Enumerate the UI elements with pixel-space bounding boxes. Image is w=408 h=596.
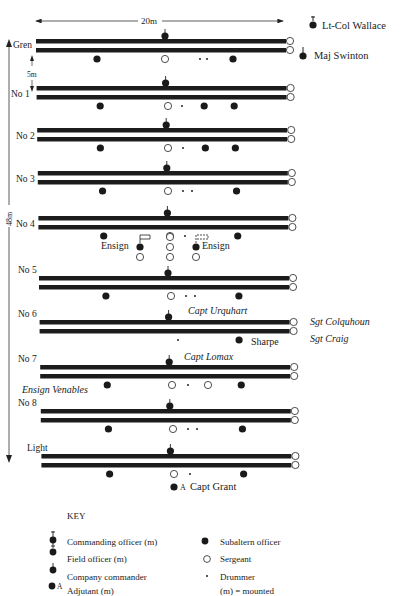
- rank-bar: [38, 171, 288, 176]
- drummer-icon: [189, 473, 191, 475]
- rank-bar: [40, 329, 290, 334]
- capt-lomax-label: Capt Lomax: [184, 351, 234, 362]
- sergeant-icon: [289, 223, 296, 230]
- sergeant-icon: [204, 381, 211, 388]
- subaltern-icon: [235, 292, 242, 299]
- drummer-icon: [206, 575, 208, 577]
- width-label: 20m: [141, 16, 157, 26]
- maj-swinton: Maj Swinton: [299, 47, 369, 61]
- company-formation-diagram: 20m 48m 5m GrenNo 1No 2No 3No 4No 5No 6N…: [0, 0, 408, 596]
- company-gren: Gren: [13, 29, 294, 63]
- sergeant-icon: [170, 470, 177, 477]
- rank-bar: [38, 216, 288, 221]
- rank-bar: [41, 409, 291, 414]
- company-no-3: No 3: [16, 161, 295, 195]
- gap-label: 5m: [27, 70, 37, 79]
- key-label: Field officer (m): [67, 554, 127, 564]
- adjutant: A Capt Grant: [170, 481, 236, 492]
- sergeant-icon: [287, 93, 294, 100]
- drummer-icon: [187, 384, 189, 386]
- subaltern-icon: [233, 187, 240, 194]
- subaltern-icon: [239, 425, 246, 432]
- subaltern-icon: [229, 55, 236, 62]
- adjutant-marker-key: A: [57, 582, 63, 591]
- company-label: No 2: [16, 131, 35, 141]
- rank-bar: [41, 418, 291, 423]
- drummer-icon: [177, 339, 179, 341]
- company-label: No 3: [16, 174, 35, 184]
- sergeant-icon: [168, 381, 175, 388]
- capt-urquhart-label: Capt Urquhart: [188, 305, 248, 316]
- rank-bar: [38, 225, 288, 230]
- company-commander-icon: [166, 402, 173, 409]
- drummer-icon: [206, 58, 208, 60]
- key-label: Adjutant (m): [67, 586, 114, 596]
- sgt-craig-label: Sgt Craig: [310, 333, 349, 344]
- company-label: No 5: [18, 265, 37, 275]
- rank-bar: [37, 86, 287, 91]
- subaltern-icon: [99, 187, 106, 194]
- lt-col-wallace: Lt-Col Wallace: [309, 16, 386, 31]
- drummer-icon: [182, 190, 184, 192]
- company-commander-icon: [163, 164, 170, 171]
- sharpe-label: Sharpe: [251, 336, 279, 347]
- subaltern-icon: [105, 425, 112, 432]
- key-label: Sergeant: [220, 554, 252, 564]
- drummer-icon: [182, 147, 184, 149]
- gap-dimension: 5m: [27, 55, 37, 92]
- subaltern-icon: [240, 470, 247, 477]
- company-label: Gren: [13, 40, 32, 50]
- sergeant-icon: [204, 556, 211, 563]
- height-dimension: 48m: [3, 39, 15, 463]
- sergeant-icon: [166, 233, 173, 240]
- subaltern-icon: [202, 144, 209, 151]
- subaltern-icon: [106, 470, 113, 477]
- subaltern-icon: [234, 232, 241, 239]
- subaltern-icon: [102, 292, 109, 299]
- subaltern-icon: [238, 381, 245, 388]
- sergeant-icon: [167, 292, 174, 299]
- sergeant-icon: [166, 243, 173, 250]
- sergeant-icon: [288, 178, 295, 185]
- rank-bar: [39, 276, 289, 281]
- company-label: No 4: [16, 219, 35, 229]
- sergeant-icon: [289, 274, 296, 281]
- subaltern-icon: [100, 232, 107, 239]
- drummer-icon: [199, 58, 201, 60]
- sergeant-icon: [291, 407, 298, 414]
- rank-bar: [36, 39, 286, 44]
- colour-party: Ensign Ensign: [101, 233, 230, 260]
- ensign-left-label: Ensign: [101, 240, 129, 251]
- drummer-icon: [184, 235, 186, 237]
- company-no-8: No 8: [18, 398, 298, 433]
- sergeant-icon: [290, 327, 297, 334]
- sgt-colquhoun-label: Sgt Colquhoun: [310, 316, 370, 327]
- subaltern-icon: [97, 144, 104, 151]
- subaltern-icon: [232, 144, 239, 151]
- subaltern-icon: [93, 55, 100, 62]
- company-commander-icon: [163, 121, 170, 128]
- key-title: KEY: [67, 511, 86, 521]
- rank-bar: [36, 48, 286, 53]
- sergeant-icon: [164, 102, 171, 109]
- sergeant-icon: [169, 425, 176, 432]
- sergeant-icon: [288, 169, 295, 176]
- drummer-icon: [196, 428, 198, 430]
- capt-grant-label: Capt Grant: [190, 481, 236, 492]
- drummer-icon: [187, 428, 189, 430]
- sergeant-icon: [291, 416, 298, 423]
- rank-bar: [40, 320, 290, 325]
- officer-label: Lt-Col Wallace: [322, 20, 386, 31]
- company-commander-icon: [164, 209, 171, 216]
- drummer-icon: [194, 295, 196, 297]
- drummer-icon: [181, 105, 183, 107]
- adjutant-icon: [170, 483, 177, 490]
- company-label: Light: [27, 443, 48, 453]
- sergeant-icon: [289, 283, 296, 290]
- company-commander-icon: [167, 447, 174, 454]
- key-label: Drummer: [220, 572, 255, 582]
- sergeant-icon: [288, 135, 295, 142]
- companies-group: GrenNo 1No 2No 3No 4No 5No 6No 7No 8Ligh…: [11, 29, 299, 478]
- subaltern-icon: [231, 102, 238, 109]
- company-commander-icon: [164, 269, 171, 276]
